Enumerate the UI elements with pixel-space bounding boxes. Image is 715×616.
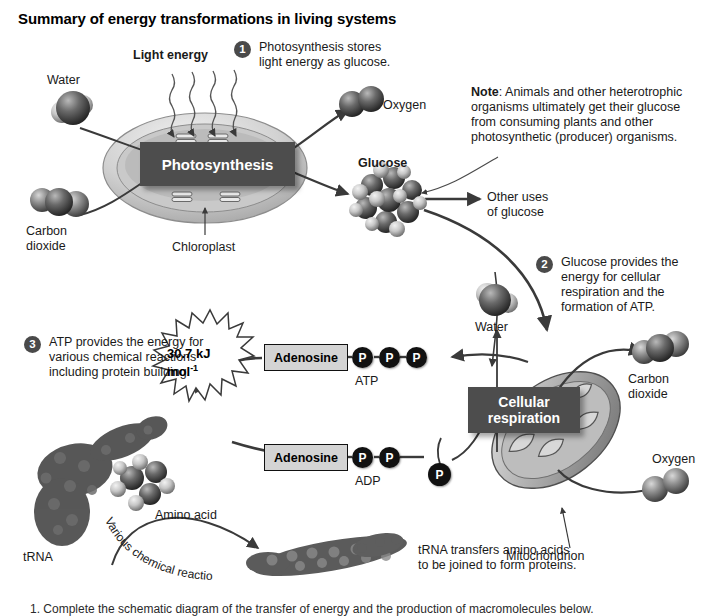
footer-question: 1. Complete the schematic diagram of the… bbox=[30, 602, 594, 616]
trna-caption-line-2: to be joined to form proteins. bbox=[418, 558, 576, 573]
trna-caption-line-1: tRNA transfers amino acids bbox=[418, 543, 576, 558]
various-reactions-label: Various chemical reactions bbox=[0, 0, 213, 583]
trna-caption: tRNA transfers amino acids to be joined … bbox=[418, 543, 576, 573]
svg-text:Various chemical reactions: Various chemical reactions bbox=[0, 0, 213, 583]
various-reactions-textpath: Various chemical reactions bbox=[0, 0, 715, 616]
